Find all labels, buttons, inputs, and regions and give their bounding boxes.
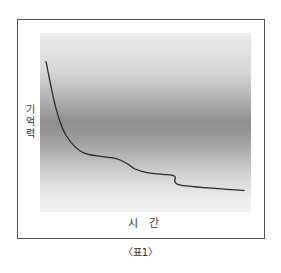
chart-caption: 〈표1〉 — [0, 244, 281, 259]
plot-area — [40, 33, 251, 212]
y-axis-label: 기 억 력 — [23, 104, 37, 140]
y-axis-char: 억 — [23, 116, 37, 128]
y-axis-char: 기 — [23, 104, 37, 116]
x-axis-label: 시 간 — [40, 214, 251, 230]
y-axis-char: 력 — [23, 128, 37, 140]
